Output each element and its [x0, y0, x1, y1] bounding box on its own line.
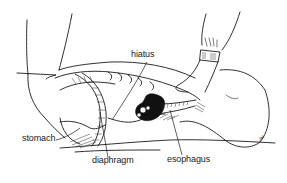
- right-arm-drawing: [176, 12, 240, 92]
- incision-drawing: [55, 71, 200, 148]
- line-drawing: [0, 0, 287, 183]
- anatomical-illustration: hiatus stomach diaphragm esophagus JH: [0, 0, 287, 183]
- hiatus-label: hiatus: [131, 49, 154, 59]
- esophagus-label: esophagus: [167, 154, 210, 164]
- stomach-leader: [56, 128, 80, 140]
- stomach-label: stomach: [22, 133, 55, 143]
- hiatus-cavity-drawing: [136, 94, 205, 121]
- diaphragm-label: diaphragm: [92, 155, 134, 165]
